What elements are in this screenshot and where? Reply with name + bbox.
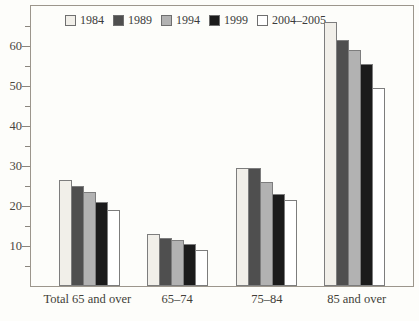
bar	[372, 88, 385, 286]
bar-group	[59, 180, 120, 286]
y-axis-tick-label: 60	[0, 39, 22, 53]
bar	[107, 210, 120, 286]
y-axis-minor-tick	[25, 66, 30, 67]
plot-area: 19841989199419992004–2005 102030405060	[30, 5, 414, 287]
bar-group	[147, 234, 208, 286]
y-axis-tick-label: 50	[0, 79, 22, 93]
x-axis-label-text: Total 65 and over	[43, 292, 131, 307]
bar	[195, 250, 208, 286]
bar	[284, 200, 297, 286]
y-axis-major-tick	[22, 126, 30, 127]
y-axis-major-tick	[22, 86, 30, 87]
x-axis-labels: Total 65 and over65–7475–8485 and over	[30, 292, 414, 307]
y-axis-major-tick	[22, 46, 30, 47]
y-axis-tick-label: 10	[0, 239, 22, 253]
y-axis-minor-tick	[25, 106, 30, 107]
y-axis-minor-tick	[25, 226, 30, 227]
x-axis-label-text: 65–74	[161, 292, 192, 307]
bar-group	[236, 168, 297, 286]
y-axis-major-tick	[22, 166, 30, 167]
x-axis-label: 75–84	[234, 292, 299, 307]
y-axis-tick-label: 40	[0, 119, 22, 133]
x-axis-label: 85 and over	[324, 292, 389, 307]
x-axis-label: 65–74	[145, 292, 210, 307]
y-axis-major-tick	[22, 246, 30, 247]
y-axis-minor-tick	[25, 266, 30, 267]
x-axis-label: Total 65 and over	[55, 292, 120, 307]
y-axis-tick-label: 20	[0, 199, 22, 213]
bar-groups	[31, 6, 413, 286]
bar-group	[324, 22, 385, 286]
y-axis-tick-label: 30	[0, 159, 22, 173]
y-axis-minor-tick	[25, 146, 30, 147]
y-axis-major-tick	[22, 206, 30, 207]
figure: 19841989199419992004–2005 102030405060 T…	[0, 0, 419, 321]
x-axis-label-text: 75–84	[251, 292, 282, 307]
y-axis-minor-tick	[25, 26, 30, 27]
x-axis-label-text: 85 and over	[327, 292, 386, 307]
y-axis-minor-tick	[25, 186, 30, 187]
